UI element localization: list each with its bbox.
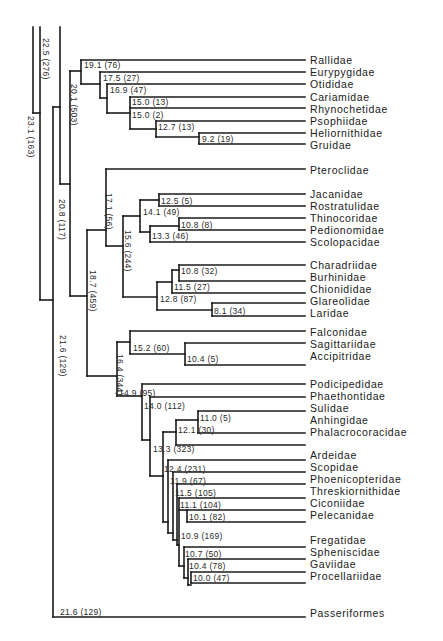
- node-label: 16.4 (344): [115, 354, 125, 396]
- node-label: 17.5 (27): [103, 73, 140, 83]
- node-label: 15.0 (2): [132, 110, 164, 120]
- node-label: 13.3 (46): [152, 231, 189, 241]
- taxon-label: Falconidae: [310, 326, 367, 338]
- taxon-label: Otididae: [310, 78, 354, 90]
- taxon-label: Jacanidae: [310, 188, 363, 200]
- taxon-label: Sulidae: [310, 402, 349, 414]
- node-label: 16.9 (47): [110, 85, 147, 95]
- node-label: 14.0 (112): [144, 401, 185, 411]
- taxon-label: Phalacrocoracidae: [310, 426, 407, 438]
- taxon-label: Thinocoridae: [310, 212, 378, 224]
- node-label: 11.5 (105): [175, 488, 216, 498]
- node-label: 12.5 (5): [161, 196, 193, 206]
- node-label: 11.9 (67): [170, 476, 206, 486]
- node-label: 23.1 (163): [26, 116, 36, 158]
- node-label: 21.6 (129): [60, 607, 102, 617]
- taxon-label: Pedionomidae: [310, 224, 384, 236]
- node-label: 10.0 (47): [193, 573, 230, 583]
- node-label: 15.6 (244): [123, 230, 133, 272]
- taxon-label: Gruidae: [310, 139, 352, 151]
- taxon-label: Anhingidae: [310, 414, 369, 426]
- node-label: 20.1 (503): [69, 84, 79, 126]
- taxon-label: Pelecanidae: [310, 509, 374, 521]
- node-label: 22.5 (276): [41, 38, 51, 80]
- node-label: 21.6 (129): [58, 335, 68, 377]
- taxon-label: Gaviidae: [310, 558, 356, 570]
- node-label: 15.2 (60): [133, 343, 170, 353]
- taxon-label: Laridae: [310, 307, 349, 319]
- node-label: 10.4 (5): [187, 354, 219, 364]
- taxon-label: Sagittariidae: [310, 338, 376, 350]
- node-label: 11.1 (104): [180, 500, 221, 510]
- node-label: 17.1 (56): [104, 193, 114, 230]
- taxon-label: Psophiidae: [310, 115, 368, 127]
- taxon-label: Podicipedidae: [310, 378, 384, 390]
- node-label: 11.5 (27): [174, 282, 210, 292]
- node-label: 20.8 (117): [57, 199, 67, 240]
- node-label: 19.1 (76): [84, 60, 121, 70]
- node-label: 12.1 (30): [178, 425, 215, 435]
- node-label: 10.7 (50): [185, 549, 222, 559]
- node-label: 18.7 (459): [88, 270, 98, 312]
- taxon-label: Scolopacidae: [310, 236, 380, 248]
- node-label: 12.7 (13): [158, 122, 195, 132]
- taxon-label: Glareolidae: [310, 295, 370, 307]
- taxon-label: Rostratulidae: [310, 200, 380, 212]
- node-label: 8.1 (34): [214, 306, 246, 316]
- node-label: 15.0 (13): [132, 97, 169, 107]
- phylogenetic-tree: [0, 0, 443, 641]
- taxon-label: Phoenicopteridae: [310, 473, 401, 485]
- taxon-label: Passeriformes: [310, 607, 385, 619]
- taxon-label: Accipitridae: [310, 350, 371, 362]
- taxon-label: Threskiornithidae: [310, 485, 401, 497]
- node-label: 10.4 (78): [189, 561, 226, 571]
- taxon-label: Charadriidae: [310, 259, 377, 271]
- node-label: 9.2 (19): [202, 134, 234, 144]
- taxon-label: Rallidae: [310, 54, 353, 66]
- taxon-label: Burhinidae: [310, 271, 366, 283]
- node-label: 10.8 (32): [181, 266, 218, 276]
- taxon-label: Fregatidae: [310, 534, 366, 546]
- taxon-label: Rhynochetidae: [310, 103, 388, 115]
- taxon-label: Phaethontidae: [310, 390, 386, 402]
- node-label: 10.9 (169): [181, 531, 223, 541]
- taxon-label: Chionididae: [310, 283, 372, 295]
- taxon-label: Scopidae: [310, 461, 359, 473]
- node-label: 10.8 (8): [181, 220, 213, 230]
- node-label: 14.1 (49): [143, 207, 180, 217]
- node-label: 12.8 (87): [160, 294, 197, 304]
- taxon-label: Cariamidae: [310, 91, 370, 103]
- taxon-label: Ardeidae: [310, 449, 357, 461]
- node-label: 10.1 (82): [189, 512, 226, 522]
- taxon-label: Ciconiidae: [310, 497, 365, 509]
- node-label: 11.0 (5): [200, 413, 231, 423]
- node-label: 13.3 (323): [153, 444, 195, 454]
- taxon-label: Spheniscidae: [310, 546, 380, 558]
- taxon-label: Eurypygidae: [310, 66, 375, 78]
- taxon-label: Pteroclidae: [310, 164, 369, 176]
- node-label: 12.4 (231): [164, 464, 206, 474]
- taxon-label: Heliornithidae: [310, 127, 383, 139]
- taxon-label: Procellariidae: [310, 570, 382, 582]
